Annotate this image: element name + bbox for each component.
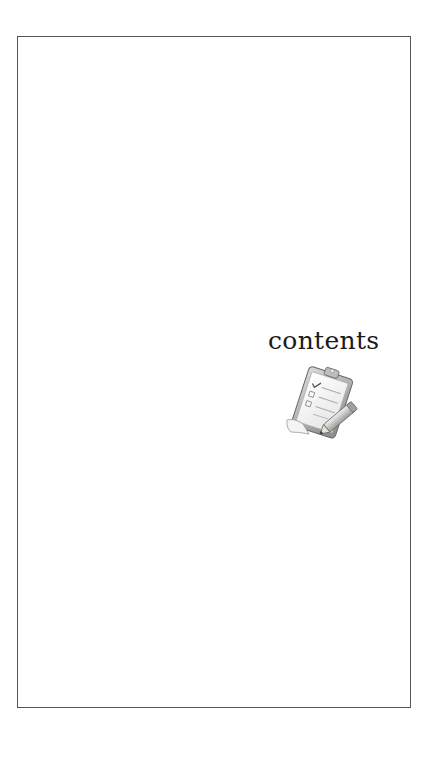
clipboard-checklist-pencil-icon [283,362,365,444]
section-title: contents [268,326,364,356]
